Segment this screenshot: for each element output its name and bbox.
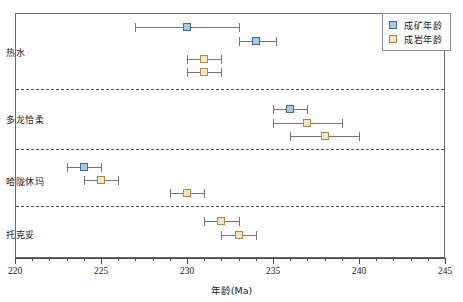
data-point-row [0, 54, 463, 65]
error-bar-cap-high [239, 217, 240, 226]
marker-rock-age[interactable] [235, 231, 243, 239]
data-point-row [0, 188, 463, 199]
marker-ore-age[interactable] [252, 37, 260, 45]
error-bar-cap-low [221, 231, 222, 240]
legend-item-ore[interactable]: 成矿年龄 [389, 18, 442, 32]
x-tick-minor [428, 258, 429, 261]
error-bar-cap-low [135, 23, 136, 32]
error-bar-cap-high [118, 176, 119, 185]
error-bar-cap-low [273, 105, 274, 114]
error-bar-cap-low [239, 37, 240, 46]
x-tick-minor [204, 258, 205, 261]
x-tick-minor [256, 258, 257, 261]
x-tick-minor [153, 258, 154, 261]
error-bar-cap-high [256, 231, 257, 240]
error-bar-cap-low [290, 132, 291, 141]
error-bar-cap-high [221, 55, 222, 64]
data-point-row [0, 104, 463, 115]
error-bar-cap-high [221, 68, 222, 77]
x-tick-label: 230 [180, 266, 194, 276]
x-tick-minor [49, 258, 50, 261]
x-tick-minor [376, 258, 377, 261]
error-bar-cap-high [307, 105, 308, 114]
marker-rock-age[interactable] [97, 176, 105, 184]
x-tick-label: 240 [352, 266, 366, 276]
x-tick-minor [32, 258, 33, 261]
group-divider-1 [16, 89, 444, 90]
x-tick-label: 220 [8, 266, 22, 276]
error-bar-cap-high [342, 119, 343, 128]
data-point-row [0, 162, 463, 173]
legend-label-ore: 成矿年龄 [404, 19, 442, 32]
x-tick-minor [342, 258, 343, 261]
marker-rock-age[interactable] [200, 68, 208, 76]
marker-rock-age[interactable] [217, 217, 225, 225]
x-tick-major [101, 258, 102, 264]
error-bar-cap-high [276, 37, 277, 46]
x-tick-minor [170, 258, 171, 261]
error-bar-cap-high [204, 189, 205, 198]
x-tick-label: 235 [266, 266, 280, 276]
x-axis-title: 年龄(Ma) [0, 283, 463, 297]
error-bar-cap-high [101, 163, 102, 172]
x-tick-minor [290, 258, 291, 261]
x-tick-minor [411, 258, 412, 261]
x-axis-line [15, 258, 445, 259]
x-tick-major [15, 258, 16, 264]
x-tick-minor [118, 258, 119, 261]
marker-ore-age[interactable] [183, 23, 191, 31]
marker-rock-age[interactable] [183, 189, 191, 197]
x-tick-minor [393, 258, 394, 261]
x-tick-major [359, 258, 360, 264]
x-tick-minor [135, 258, 136, 261]
error-bar-cap-low [273, 119, 274, 128]
error-bar-cap-high [359, 132, 360, 141]
age-range-chart: 热水 多龙恰柔 哈陇休玛 托克妥 220225230235240245 年龄(M… [0, 0, 463, 302]
legend-swatch-ore-icon [389, 21, 397, 29]
data-point-row [0, 230, 463, 241]
x-tick-major [445, 258, 446, 264]
marker-rock-age[interactable] [303, 119, 311, 127]
data-point-row [0, 118, 463, 129]
error-bar-cap-low [170, 189, 171, 198]
x-tick-minor [221, 258, 222, 261]
legend-label-rock: 成岩年龄 [404, 33, 442, 46]
data-point-row [0, 175, 463, 186]
group-divider-2 [16, 149, 444, 150]
marker-ore-age[interactable] [80, 163, 88, 171]
x-tick-major [273, 258, 274, 264]
error-bar-cap-low [187, 68, 188, 77]
legend-swatch-rock-icon [389, 35, 397, 43]
legend: 成矿年龄 成岩年龄 [382, 13, 451, 51]
marker-rock-age[interactable] [200, 55, 208, 63]
error-bar-cap-high [239, 23, 240, 32]
data-point-row [0, 216, 463, 227]
error-bar-cap-low [204, 217, 205, 226]
x-tick-minor [307, 258, 308, 261]
x-tick-minor [325, 258, 326, 261]
data-point-row [0, 67, 463, 78]
x-tick-minor [84, 258, 85, 261]
legend-item-rock[interactable]: 成岩年龄 [389, 32, 442, 46]
x-tick-label: 225 [94, 266, 108, 276]
x-tick-minor [67, 258, 68, 261]
x-tick-major [187, 258, 188, 264]
error-bar-cap-low [67, 163, 68, 172]
data-point-row [0, 131, 463, 142]
error-bar-cap-low [187, 55, 188, 64]
error-bar-cap-low [84, 176, 85, 185]
x-tick-label: 245 [438, 266, 452, 276]
marker-rock-age[interactable] [321, 132, 329, 140]
x-tick-minor [239, 258, 240, 261]
marker-ore-age[interactable] [286, 105, 294, 113]
group-divider-3 [16, 206, 444, 207]
